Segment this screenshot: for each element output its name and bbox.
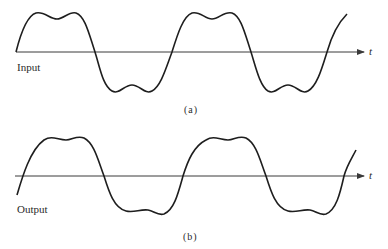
waveform-diagram xyxy=(0,0,388,249)
input-label: Input xyxy=(17,61,40,73)
caption-a: (a) xyxy=(184,104,198,115)
panel-b xyxy=(15,137,364,214)
output-label: Output xyxy=(17,203,48,215)
panel-a xyxy=(16,13,364,92)
caption-b: (b) xyxy=(183,231,198,242)
time-axis-label-a: t xyxy=(369,45,372,57)
time-axis-label-b: t xyxy=(369,169,372,181)
waveform-figure: Input t (a) Output t (b) xyxy=(0,0,388,249)
